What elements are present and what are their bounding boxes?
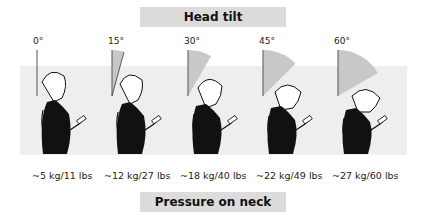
pressure-on-neck-title: Pressure on neck (140, 192, 286, 212)
weight-label-0: ~5 kg/11 lbs (32, 170, 92, 181)
woman-figure-0 (42, 72, 87, 154)
woman-figure-15 (117, 75, 162, 154)
angle-wedge-60 (338, 50, 378, 96)
weight-label-15: ~12 kg/27 lbs (104, 170, 171, 181)
weight-label-45: ~22 kg/49 lbs (256, 170, 323, 181)
weight-label-60: ~27 kg/60 lbs (332, 170, 399, 181)
woman-figure-30 (192, 79, 237, 154)
woman-figure-45 (267, 85, 312, 154)
posture-illustrations (0, 0, 426, 215)
woman-figure-60 (342, 89, 387, 154)
weight-label-30: ~18 kg/40 lbs (180, 170, 247, 181)
